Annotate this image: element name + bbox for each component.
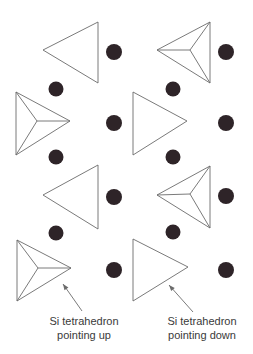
cation-dot [218, 262, 234, 278]
si-tetrahedron-up-r1-right [157, 22, 210, 83]
tetrahedra-layer [16, 22, 210, 301]
cation-dot [166, 225, 181, 240]
cation-dot [218, 115, 234, 131]
silicate-sheet-diagram [0, 0, 253, 354]
cation-dot [218, 44, 234, 60]
label-up-line2: pointing up [34, 328, 134, 342]
cation-dot [49, 150, 64, 165]
si-tetrahedron-down-r4-right [133, 239, 188, 301]
label-down-line1: Si tetrahedron [152, 314, 252, 328]
cation-dot [218, 188, 234, 204]
cation-dot [49, 226, 64, 241]
si-tetrahedron-up-r3-right [157, 166, 210, 228]
cation-dot [106, 262, 122, 278]
annotation-arrows-layer [63, 284, 193, 312]
cation-dot [49, 82, 64, 97]
cation-dot [106, 189, 122, 205]
label-up-line1: Si tetrahedron [34, 314, 134, 328]
cation-dot [106, 115, 122, 131]
cation-dot [166, 150, 181, 165]
arrowhead-icon [63, 284, 68, 290]
si-tetrahedron-up-r4-left [17, 240, 71, 301]
label-down-line2: pointing down [152, 328, 252, 342]
cation-dot [166, 82, 181, 97]
cation-dot [106, 44, 122, 60]
si-tetrahedron-down-r2-right [133, 92, 187, 155]
label-pointing-down: Si tetrahedron pointing down [152, 314, 252, 342]
si-tetrahedron-up-r2-left [16, 92, 70, 155]
si-tetrahedron-down-r1-left [43, 22, 98, 83]
label-pointing-up: Si tetrahedron pointing up [34, 314, 134, 342]
si-tetrahedron-down-r3-left [43, 165, 98, 229]
